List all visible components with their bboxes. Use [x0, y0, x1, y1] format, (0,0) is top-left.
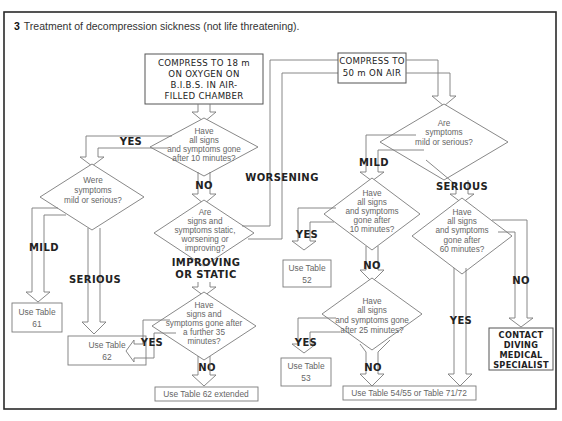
svg-text:symptoms static,: symptoms static,	[175, 226, 236, 235]
svg-text:DIVING: DIVING	[504, 340, 539, 350]
svg-text:52: 52	[302, 275, 312, 285]
svg-text:Were: Were	[83, 176, 103, 185]
label-no-q4: NO	[198, 362, 216, 373]
label-yes-q4-right: YES	[449, 315, 472, 326]
label-mild-right: MILD	[359, 157, 389, 168]
result-table-54-55-71-72: Use Table 54/55 or Table 71/72	[343, 386, 476, 400]
svg-text:after 10 minutes?: after 10 minutes?	[172, 154, 236, 163]
svg-text:gone after: gone after	[354, 216, 391, 225]
label-serious: SERIOUS	[69, 274, 121, 285]
label-static: OR STATIC	[175, 269, 236, 280]
svg-text:and symptoms gone: and symptoms gone	[335, 316, 409, 325]
svg-text:symptoms: symptoms	[74, 186, 111, 195]
label-serious-right: SERIOUS	[436, 181, 488, 192]
label-improving: IMPROVING	[172, 257, 241, 268]
svg-text:Have: Have	[362, 189, 382, 198]
left-q1-diamond: Have all signs and symptoms gone after 1…	[150, 118, 258, 176]
svg-text:Use Table 62 extended: Use Table 62 extended	[163, 389, 249, 399]
svg-text:mild or serious?: mild or serious?	[64, 196, 122, 205]
svg-text:Have: Have	[452, 208, 472, 217]
label-no: NO	[195, 180, 213, 191]
svg-text:62: 62	[102, 352, 112, 362]
right-q1-diamond: Are symptoms mild or serious?	[380, 104, 508, 180]
svg-text:MEDICAL: MEDICAL	[499, 350, 542, 360]
label-yes-53: YES	[294, 337, 317, 348]
svg-text:symptoms gone after: symptoms gone after	[166, 319, 243, 328]
left-q4-diamond: Have signs and symptoms gone after a fur…	[152, 292, 256, 360]
svg-text:Have: Have	[194, 127, 214, 136]
svg-text:61: 61	[32, 319, 42, 329]
svg-text:ON OXYGEN ON: ON OXYGEN ON	[168, 69, 239, 79]
svg-text:FILLED CHAMBER: FILLED CHAMBER	[164, 91, 243, 101]
svg-text:10 minutes?: 10 minutes?	[350, 225, 395, 234]
result-table-52: Use Table 52	[283, 260, 331, 287]
svg-text:53: 53	[301, 373, 311, 383]
svg-text:Use Table: Use Table	[18, 307, 55, 317]
svg-text:60 minutes?: 60 minutes?	[440, 245, 485, 254]
result-table-62-extended: Use Table 62 extended	[155, 387, 258, 401]
svg-text:Use Table: Use Table	[287, 361, 324, 371]
svg-text:SPECIALIST: SPECIALIST	[493, 360, 549, 370]
right-q4-diamond: Have all signs and symptoms gone after 6…	[412, 198, 512, 274]
svg-text:Use Table: Use Table	[288, 263, 325, 273]
svg-text:and symptoms: and symptoms	[435, 226, 488, 235]
label-no-q3: NO	[364, 362, 382, 373]
svg-text:minutes?: minutes?	[187, 337, 221, 346]
svg-text:mild or serious?: mild or serious?	[415, 138, 473, 147]
svg-text:all signs: all signs	[357, 306, 387, 315]
svg-text:Are: Are	[199, 208, 212, 217]
svg-text:B.I.B.S. IN AIR-: B.I.B.S. IN AIR-	[170, 80, 237, 90]
svg-text:and symptoms: and symptoms	[345, 207, 398, 216]
arrow-yes-q4-right-icon	[448, 268, 472, 386]
label-worsening: WORSENING	[245, 172, 319, 183]
svg-text:all signs: all signs	[447, 217, 477, 226]
label-yes-52: YES	[295, 229, 318, 240]
right-q3-diamond: Have all signs and symptoms gone after 2…	[322, 278, 422, 350]
svg-text:COMPRESS TO: COMPRESS TO	[339, 56, 405, 66]
svg-text:worsening or: worsening or	[181, 235, 229, 244]
svg-text:symptoms: symptoms	[425, 128, 462, 137]
label-no-q2: NO	[363, 260, 381, 271]
arrow-right-start-icon	[406, 60, 456, 106]
svg-text:Use Table: Use Table	[88, 340, 125, 350]
svg-text:a further 35: a further 35	[183, 328, 225, 337]
svg-text:signs and: signs and	[187, 217, 222, 226]
svg-text:COMPRESS TO 18 m: COMPRESS TO 18 m	[158, 58, 250, 68]
right-q2-diamond: Have all signs and symptoms gone after 1…	[324, 178, 420, 250]
flowchart: 3Treatment of decompression sickness (no…	[0, 0, 562, 421]
svg-text:gone after: gone after	[444, 236, 481, 245]
svg-text:all signs: all signs	[357, 198, 387, 207]
label-yes-q4: YES	[140, 337, 163, 348]
svg-text:improving?: improving?	[185, 244, 225, 253]
svg-text:after 25 minutes?: after 25 minutes?	[340, 326, 404, 335]
svg-text:Have: Have	[362, 297, 382, 306]
svg-text:signs and: signs and	[186, 310, 221, 319]
arrow-mild-icon	[26, 208, 66, 302]
svg-text:CONTACT: CONTACT	[499, 330, 544, 340]
right-start-box: COMPRESS TO 50 m ON AIR	[338, 53, 406, 83]
svg-text:Have: Have	[194, 301, 214, 310]
figure-title: 3Treatment of decompression sickness (no…	[14, 20, 300, 32]
svg-text:50 m ON AIR: 50 m ON AIR	[343, 68, 401, 78]
label-yes: YES	[119, 136, 142, 147]
result-table-53: Use Table 53	[281, 358, 331, 386]
svg-text:and symptoms gone: and symptoms gone	[167, 145, 241, 154]
label-mild: MILD	[29, 242, 59, 253]
result-table-61: Use Table 61	[12, 303, 62, 332]
left-q2-diamond: Were symptoms mild or serious?	[40, 164, 144, 230]
label-no-q4-right: NO	[512, 275, 530, 286]
result-contact-specialist: CONTACT DIVING MEDICAL SPECIALIST	[489, 328, 553, 370]
svg-text:Use Table 54/55 or Table 71/72: Use Table 54/55 or Table 71/72	[351, 388, 467, 398]
svg-text:Are: Are	[438, 119, 451, 128]
svg-text:all signs: all signs	[189, 136, 219, 145]
left-start-box: COMPRESS TO 18 m ON OXYGEN ON B.I.B.S. I…	[145, 54, 263, 104]
